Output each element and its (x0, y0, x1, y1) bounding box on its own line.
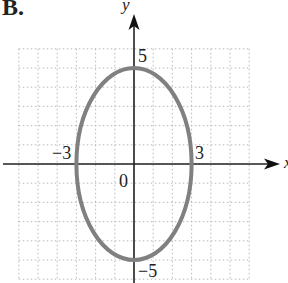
tick-label-x-neg3: −3 (52, 143, 71, 164)
tick-label-x-3: 3 (195, 143, 204, 164)
y-axis-label: y (122, 0, 130, 15)
x-axis-label: x (284, 153, 288, 173)
origin-label: 0 (119, 171, 128, 192)
tick-label-y-5: 5 (138, 46, 147, 67)
ellipse-graph (0, 0, 288, 283)
tick-label-y-neg5: −5 (138, 261, 157, 282)
x-axis (3, 159, 280, 170)
